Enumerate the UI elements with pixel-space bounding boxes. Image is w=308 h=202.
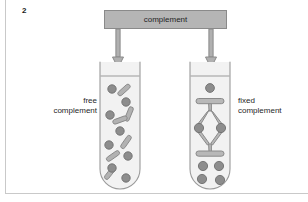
complement-particle [105, 141, 113, 149]
complement-particle [106, 111, 114, 119]
figure-scene [0, 0, 308, 202]
complement-particle [194, 123, 203, 132]
complement-particle [108, 85, 116, 93]
complement-fixation-figure: 2 complement free complement fixed compl… [0, 0, 308, 202]
complement-particle [206, 84, 215, 93]
complement-particle [122, 98, 130, 106]
antibody-top-bar [196, 99, 224, 104]
antibody-bottom-bar [196, 151, 224, 156]
free-complement-tube [100, 62, 140, 189]
complement-particle [214, 161, 223, 170]
complement-particle [215, 175, 224, 184]
complement-particle [216, 123, 225, 132]
fixed-complement-tube [190, 62, 230, 189]
arrow-to-free-tube-shaft [116, 29, 120, 57]
complement-particle [122, 174, 130, 182]
complement-particle [197, 174, 206, 183]
complement-particle [124, 152, 132, 160]
complement-particle [108, 164, 116, 172]
complement-particle [198, 161, 207, 170]
complement-particle [116, 127, 124, 135]
free-tube-glass [100, 62, 140, 189]
arrow-to-fixed-tube-shaft [209, 29, 213, 57]
